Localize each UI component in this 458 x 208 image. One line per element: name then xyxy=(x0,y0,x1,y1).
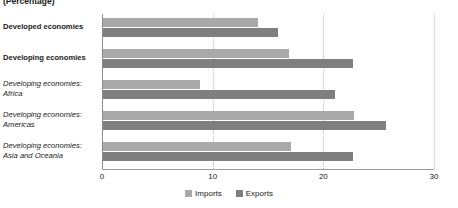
bar-imports xyxy=(103,18,258,27)
legend-item-imports[interactable]: Imports xyxy=(185,189,222,198)
bar-chart: (Percentage) Developed economiesDevelopi… xyxy=(0,0,458,208)
category-label-line1: Developing economies: xyxy=(3,141,98,150)
legend-label-imports: Imports xyxy=(195,189,222,198)
bar-imports xyxy=(103,49,289,58)
bar-imports xyxy=(103,111,354,120)
category-label-line1: Developing economies xyxy=(3,53,98,62)
legend-label-exports: Exports xyxy=(246,189,273,198)
category-label-line1: Developing economies: xyxy=(3,79,98,88)
bar-group: Developing economies:Americas xyxy=(0,111,458,130)
x-tick-label-0: 0 xyxy=(100,172,104,181)
bar-group: Developed economies xyxy=(0,18,458,37)
bar-exports xyxy=(103,59,353,68)
category-label-line1: Developing economies: xyxy=(3,110,98,119)
category-label: Developing economies:Americas xyxy=(3,110,98,128)
category-label-line2: Americas xyxy=(3,120,98,129)
x-tick-label-10: 10 xyxy=(208,172,217,181)
category-label: Developing economies:Asia and Oceania xyxy=(3,141,98,159)
legend-swatch-exports xyxy=(236,190,243,197)
category-label: Developing economies xyxy=(3,53,98,62)
legend-item-exports[interactable]: Exports xyxy=(236,189,273,198)
category-label: Developing economies:Africa xyxy=(3,79,98,97)
bar-group: Developing economies:Asia and Oceania xyxy=(0,142,458,161)
x-tick-label-20: 20 xyxy=(319,172,328,181)
x-axis-baseline xyxy=(102,169,434,170)
category-label-line1: Developed economies xyxy=(3,22,98,31)
chart-subtitle: (Percentage) xyxy=(3,0,55,6)
bar-group: Developing economies xyxy=(0,49,458,68)
bar-exports xyxy=(103,90,335,99)
category-label-line2: Africa xyxy=(3,89,98,98)
legend-swatch-imports xyxy=(185,190,192,197)
bar-group: Developing economies:Africa xyxy=(0,80,458,99)
bar-exports xyxy=(103,121,386,130)
bar-imports xyxy=(103,80,200,89)
chart-legend: ImportsExports xyxy=(0,189,458,198)
bar-exports xyxy=(103,152,353,161)
bar-exports xyxy=(103,28,278,37)
category-label-line2: Asia and Oceania xyxy=(3,151,98,160)
x-tick-label-30: 30 xyxy=(430,172,439,181)
bar-imports xyxy=(103,142,291,151)
category-label: Developed economies xyxy=(3,22,98,31)
